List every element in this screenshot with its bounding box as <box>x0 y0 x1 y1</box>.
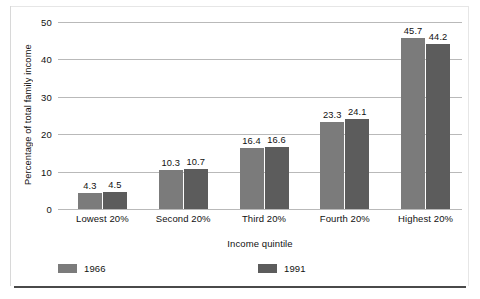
chart-legend: 19661991 <box>0 263 480 277</box>
bar-value-label: 24.1 <box>348 107 367 117</box>
y-axis-title: Percentage of total family income <box>21 30 35 200</box>
x-tick-label: Second 20% <box>156 213 211 224</box>
y-tick-label-20: 20 <box>41 129 52 140</box>
legend-item-1966[interactable]: 1966 <box>58 263 106 274</box>
legend-swatch <box>58 264 77 273</box>
legend-swatch <box>258 264 277 273</box>
bar[interactable]: 10.7 <box>184 169 208 209</box>
bar[interactable]: 24.1 <box>345 119 369 209</box>
bar[interactable]: 16.6 <box>265 147 289 209</box>
bar[interactable]: 45.7 <box>401 38 425 209</box>
bar[interactable]: 23.3 <box>320 122 344 209</box>
bar-group: 16.416.6Third 20% <box>240 22 289 209</box>
x-tick-label: Highest 20% <box>398 213 453 224</box>
figure: Percentage of total family income 010203… <box>0 0 480 299</box>
figure-border-top <box>10 6 469 7</box>
bar-value-label: 45.7 <box>404 26 423 36</box>
figure-border-right <box>468 6 469 286</box>
bar-group: 10.310.7Second 20% <box>159 22 208 209</box>
bar-value-label: 10.7 <box>186 157 205 167</box>
y-tick-label-10: 10 <box>41 166 52 177</box>
y-tick-label-40: 40 <box>41 54 52 65</box>
bar-value-label: 10.3 <box>161 158 180 168</box>
bar[interactable]: 10.3 <box>159 170 183 209</box>
x-tick-label: Third 20% <box>242 213 286 224</box>
bar-value-label: 4.5 <box>108 180 121 190</box>
bar[interactable]: 4.5 <box>103 192 127 209</box>
bar-value-label: 4.3 <box>83 181 96 191</box>
bar-value-label: 23.3 <box>323 110 342 120</box>
bar-group: 45.744.2Highest 20% <box>401 22 450 209</box>
y-tick-label-50: 50 <box>41 17 52 28</box>
bar-value-label: 44.2 <box>429 32 448 42</box>
bar-group: 23.324.1Fourth 20% <box>320 22 369 209</box>
bar[interactable]: 4.3 <box>78 193 102 209</box>
x-axis-title: Income quintile <box>58 238 462 249</box>
legend-item-1991[interactable]: 1991 <box>258 263 306 274</box>
legend-label: 1991 <box>284 263 306 274</box>
bar-group: 4.34.5Lowest 20% <box>78 22 127 209</box>
plot-area: 01020304050 4.34.5Lowest 20%10.310.7Seco… <box>58 22 462 209</box>
y-tick-label-30: 30 <box>41 91 52 102</box>
x-tick-label: Lowest 20% <box>76 213 129 224</box>
figure-bottom-rule <box>14 286 466 288</box>
figure-border-left <box>10 6 11 286</box>
x-tick-label: Fourth 20% <box>320 213 370 224</box>
bar-value-label: 16.4 <box>242 136 261 146</box>
y-tick-label-0: 0 <box>47 204 52 215</box>
bar-value-label: 16.6 <box>267 135 286 145</box>
bar[interactable]: 44.2 <box>426 44 450 209</box>
gridline-0: 0 <box>58 209 462 210</box>
legend-label: 1966 <box>84 263 106 274</box>
bar[interactable]: 16.4 <box>240 148 264 209</box>
